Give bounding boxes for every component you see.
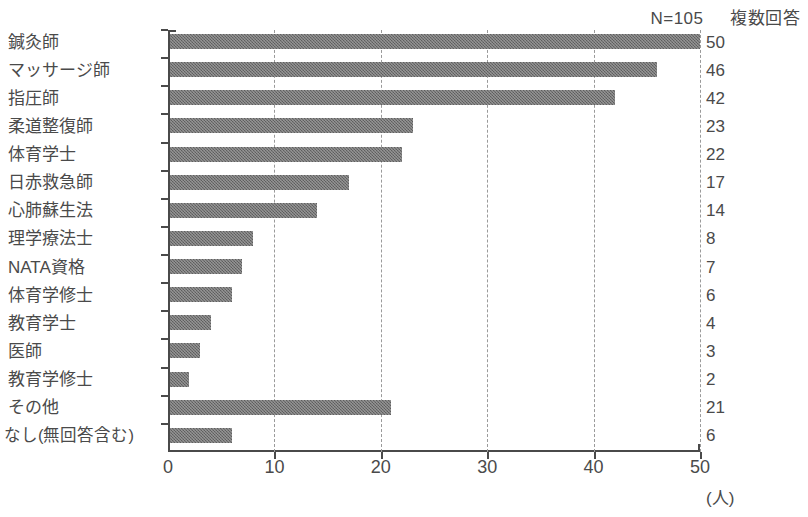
category-label: 理学療法士 — [0, 230, 164, 247]
bar — [170, 147, 402, 162]
y-axis-tick — [161, 395, 168, 397]
bar — [170, 62, 657, 77]
y-axis-tick — [161, 423, 168, 425]
y-axis-tick — [161, 367, 168, 369]
y-axis-tick — [161, 310, 168, 312]
category-label: 柔道整復師 — [0, 118, 164, 135]
category-label: 医師 — [0, 343, 164, 360]
category-label: 鍼灸師 — [0, 34, 164, 51]
bar-value-label: 6 — [706, 427, 715, 444]
x-axis-tick-label: 10 — [264, 458, 284, 476]
bar-value-label: 17 — [706, 174, 725, 191]
bar-value-label: 14 — [706, 202, 725, 219]
category-label-column: 鍼灸師マッサージ師指圧師柔道整復師体育学士日赤救急師心肺蘇生法理学療法士NATA… — [0, 30, 166, 452]
bar-value-label: 3 — [706, 343, 715, 360]
bar — [170, 400, 391, 415]
category-label: その他 — [0, 399, 164, 416]
category-label: 教育学士 — [0, 315, 164, 332]
bar — [170, 90, 615, 105]
y-axis-tick — [161, 198, 168, 200]
category-label: 心肺蘇生法 — [0, 202, 164, 219]
y-axis-top-cap — [168, 30, 176, 32]
category-label: 日赤救急師 — [0, 174, 164, 191]
y-axis-tick — [161, 170, 168, 172]
y-axis-tick — [161, 85, 168, 87]
bar — [170, 287, 232, 302]
category-label: マッサージ師 — [0, 62, 164, 79]
y-axis-tick — [161, 29, 168, 31]
x-axis-tick-label: 50 — [690, 458, 710, 476]
gridline-50 — [700, 30, 701, 452]
horizontal-bar-chart: 鍼灸師マッサージ師指圧師柔道整復師体育学士日赤救急師心肺蘇生法理学療法士NATA… — [0, 0, 808, 517]
bar — [170, 175, 349, 190]
bar — [170, 428, 232, 443]
y-axis-tick — [161, 226, 168, 228]
bar — [170, 315, 211, 330]
x-axis-tick-label: 40 — [584, 458, 604, 476]
y-axis-tick — [161, 282, 168, 284]
x-axis-unit-label: (人) — [706, 484, 734, 509]
bar — [170, 34, 700, 49]
bar — [170, 372, 189, 387]
category-label: なし(無回答含む) — [0, 427, 164, 444]
bar — [170, 203, 317, 218]
bar-value-label: 2 — [706, 371, 715, 388]
bar-value-label: 23 — [706, 118, 725, 135]
category-label: 体育学修士 — [0, 287, 164, 304]
x-axis-tick-label: 20 — [371, 458, 391, 476]
y-axis-tick — [161, 142, 168, 144]
bar — [170, 259, 242, 274]
category-label: NATA資格 — [0, 259, 164, 276]
bar-value-label: 46 — [706, 62, 725, 79]
x-axis-tick-label: 0 — [163, 458, 173, 476]
bar-value-label: 4 — [706, 315, 715, 332]
y-axis-tick — [161, 57, 168, 59]
bar — [170, 118, 413, 133]
y-axis-tick — [161, 338, 168, 340]
x-axis-line — [168, 450, 700, 452]
x-axis-tick-label: 30 — [477, 458, 497, 476]
y-axis-tick — [161, 254, 168, 256]
bar-value-label: 21 — [706, 399, 725, 416]
category-label: 指圧師 — [0, 90, 164, 107]
bar — [170, 343, 200, 358]
bar-value-label: 7 — [706, 259, 715, 276]
bar-value-label: 50 — [706, 34, 725, 51]
bar-value-label: 22 — [706, 146, 725, 163]
bar-value-label: 42 — [706, 90, 725, 107]
bar-value-label: 8 — [706, 230, 715, 247]
bar-value-label: 6 — [706, 287, 715, 304]
bar — [170, 231, 253, 246]
plot-area — [168, 30, 700, 452]
category-label: 教育学修士 — [0, 371, 164, 388]
y-axis-tick — [161, 113, 168, 115]
category-label: 体育学士 — [0, 146, 164, 163]
